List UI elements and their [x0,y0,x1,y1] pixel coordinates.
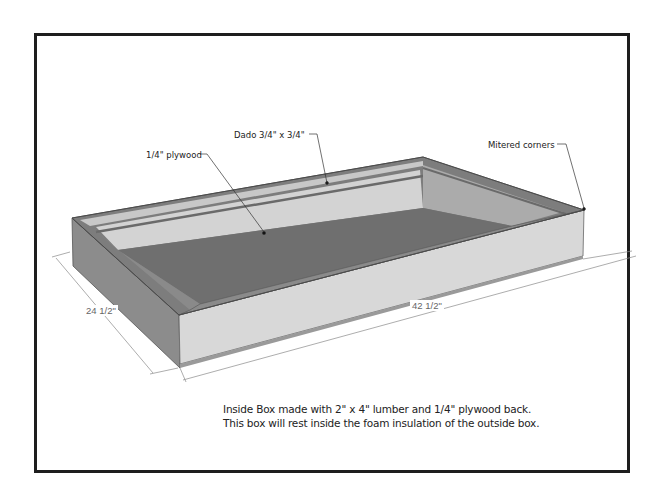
dimension-length: 42 1/2" [410,300,444,311]
caption: Inside Box made with 2" x 4" lumber and … [223,402,539,430]
callout-dado: Dado 3/4" x 3/4" [234,130,305,140]
callout-mitered-corners: Mitered corners [488,140,555,150]
dimension-width: 24 1/2" [84,305,118,316]
mitered-leader [557,144,584,208]
callout-plywood: 1/4" plywood [146,150,202,160]
caption-line-2: This box will rest inside the foam insul… [223,416,539,430]
caption-line-1: Inside Box made with 2" x 4" lumber and … [223,402,539,416]
